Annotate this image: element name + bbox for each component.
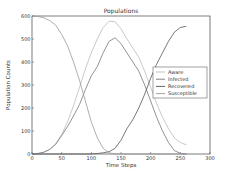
y-tick-label: 500 — [21, 36, 31, 42]
y-axis-label: Population Counts — [5, 60, 12, 110]
legend-label: Recovered — [168, 83, 194, 89]
x-tick-label: 50 — [58, 155, 64, 161]
population-chart: 0501001502002503000100200300400500600 Po… — [0, 0, 225, 174]
y-tick-label: 400 — [21, 59, 31, 65]
x-tick-label: 250 — [176, 155, 186, 161]
x-axis-label: Time Steps — [105, 162, 137, 169]
x-tick-label: 200 — [146, 155, 156, 161]
y-tick-label: 600 — [21, 13, 31, 19]
legend: AwareInfectedRecoveredSusceptible — [153, 67, 207, 98]
x-tick-label: 300 — [205, 155, 215, 161]
y-tick-label: 0 — [27, 151, 30, 157]
y-tick-label: 200 — [21, 105, 31, 111]
legend-label: Susceptible — [168, 90, 197, 97]
x-tick-label: 100 — [87, 155, 97, 161]
y-tick-label: 300 — [21, 82, 31, 88]
y-tick-label: 100 — [21, 128, 31, 134]
legend-label: Aware — [168, 69, 183, 75]
chart-title: Populations — [104, 7, 139, 15]
x-tick-label: 0 — [30, 155, 33, 161]
x-tick-label: 150 — [116, 155, 126, 161]
legend-label: Infected — [168, 76, 188, 82]
